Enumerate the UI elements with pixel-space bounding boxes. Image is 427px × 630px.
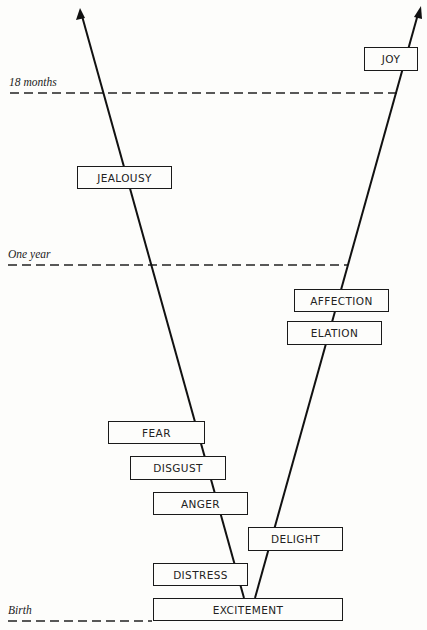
disgust-box: DISGUST [130, 456, 226, 480]
one-year-label: One year [8, 248, 50, 260]
excitement-box: EXCITEMENT [153, 598, 343, 621]
jealousy-box: JEALOUSY [77, 166, 172, 189]
joy-box: JOY [364, 47, 418, 71]
delight-box: DELIGHT [248, 527, 343, 551]
elation-box: ELATION [287, 321, 382, 345]
affection-box: AFFECTION [294, 289, 389, 312]
eighteen-months-label: 18 months [9, 76, 57, 88]
birth-label: Birth [8, 604, 32, 616]
anger-box: ANGER [153, 492, 248, 515]
distress-box: DISTRESS [153, 563, 248, 586]
fear-box: FEAR [108, 421, 205, 444]
left-arrowhead-icon [76, 8, 85, 20]
right-arrowhead-icon [414, 6, 422, 19]
diagram-lines [0, 0, 427, 630]
